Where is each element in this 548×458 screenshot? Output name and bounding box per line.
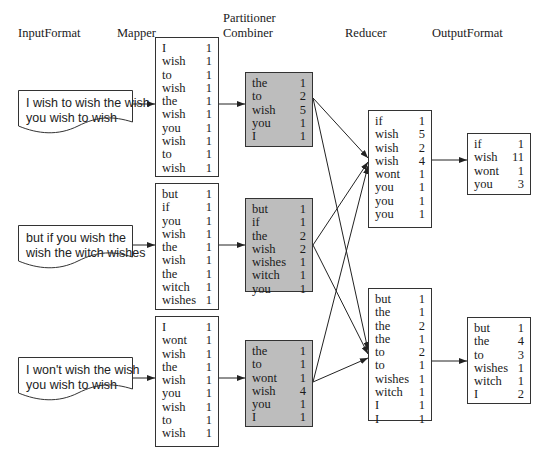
key: but (474, 322, 490, 335)
key: the (375, 306, 390, 319)
kv-row: you1 (252, 398, 306, 411)
key: the (162, 268, 177, 281)
count: 1 (294, 130, 306, 143)
count: 1 (294, 372, 306, 385)
key: wish (162, 401, 186, 414)
kv-row: the1 (162, 95, 212, 108)
key: witch (162, 281, 190, 294)
kv-row: to1 (375, 359, 425, 372)
count: 1 (413, 386, 425, 399)
count: 1 (200, 387, 212, 400)
count: 3 (512, 178, 524, 191)
kv-row: the2 (375, 320, 425, 333)
count: 1 (512, 322, 524, 335)
key: wish (375, 142, 399, 155)
kv-row: if1 (375, 115, 425, 128)
key: wish (162, 135, 186, 148)
count: 1 (200, 55, 212, 68)
count: 1 (294, 77, 306, 90)
reducer-box-2: but1the1the2the1to2to1wishes1witch1I1I1 (368, 288, 432, 421)
key: the (375, 320, 390, 333)
kv-row: wish1 (162, 374, 212, 387)
count: 1 (413, 293, 425, 306)
mapper-box-1: I1wish1to1wish1the1wish1you1wish1to1wish… (155, 37, 219, 177)
kv-row: wishes1 (162, 294, 212, 307)
count: 5 (294, 104, 306, 117)
key: the (252, 345, 267, 358)
kv-row: wishes1 (375, 373, 425, 386)
count: 1 (413, 359, 425, 372)
key: but (162, 188, 178, 201)
count: 2 (512, 388, 524, 401)
key: I (252, 411, 256, 424)
key: I (252, 130, 256, 143)
kv-row: wish1 (162, 135, 212, 148)
key: wish (252, 104, 276, 117)
key: to (252, 358, 262, 371)
output-box-2: but1the4to3wishes1witch1I2 (467, 317, 531, 404)
count: 11 (512, 151, 524, 164)
key: I (375, 413, 379, 426)
key: you (162, 387, 181, 400)
kv-row: I1 (162, 321, 212, 334)
kv-row: you1 (252, 117, 306, 130)
key: you (375, 208, 394, 221)
kv-row: wish1 (162, 427, 212, 440)
kv-row: wish1 (162, 108, 212, 121)
count: 1 (413, 333, 425, 346)
key: wish (162, 55, 186, 68)
kv-row: to2 (375, 346, 425, 359)
mapper-box-3: I1wont1wish1the1wish1you1wish1to1wish1 (155, 316, 219, 447)
input-line-2: wish the witch wishes (26, 246, 146, 261)
key: the (252, 77, 267, 90)
input-line-1: I won't wish the wish (26, 363, 140, 378)
combiner-box-1: the1to2wish5you1I1 (245, 72, 313, 147)
kv-row: you1 (252, 283, 306, 296)
key: wish (162, 254, 186, 267)
count: 1 (294, 398, 306, 411)
kv-row: but1 (375, 293, 425, 306)
count: 2 (294, 90, 306, 103)
input-line-1: I wish to wish the wish (26, 96, 150, 111)
key: wishes (474, 362, 508, 375)
kv-row: if1 (252, 216, 306, 229)
kv-row: wont1 (375, 168, 425, 181)
count: 1 (200, 188, 212, 201)
input-document-3: I won't wish the wish you wish to wish (18, 357, 133, 403)
kv-row: I1 (252, 411, 306, 424)
count: 1 (413, 306, 425, 319)
kv-row: I1 (162, 42, 212, 55)
key: wont (474, 165, 499, 178)
count: 1 (413, 115, 425, 128)
key: wish (252, 385, 276, 398)
kv-row: if1 (162, 201, 212, 214)
count: 1 (413, 208, 425, 221)
kv-row: wishes1 (474, 362, 524, 375)
count: 1 (413, 399, 425, 412)
count: 1 (200, 148, 212, 161)
count: 1 (200, 135, 212, 148)
count: 1 (200, 82, 212, 95)
key: wish (162, 427, 186, 440)
kv-row: wish4 (375, 155, 425, 168)
kv-row: the1 (162, 268, 212, 281)
key: wont (252, 372, 277, 385)
key: wish (375, 155, 399, 168)
count: 1 (413, 195, 425, 208)
kv-row: wont1 (252, 372, 306, 385)
key: wishes (252, 256, 286, 269)
key: to (162, 148, 172, 161)
kv-row: wish1 (162, 254, 212, 267)
count: 1 (200, 401, 212, 414)
kv-row: the1 (375, 306, 425, 319)
kv-row: wish1 (162, 82, 212, 95)
key: the (474, 335, 489, 348)
key: if (252, 216, 260, 229)
count: 2 (413, 346, 425, 359)
key: to (375, 346, 385, 359)
kv-row: you1 (375, 208, 425, 221)
key: witch (252, 269, 280, 282)
key: if (474, 138, 482, 151)
kv-row: I1 (252, 130, 306, 143)
key: if (375, 115, 383, 128)
